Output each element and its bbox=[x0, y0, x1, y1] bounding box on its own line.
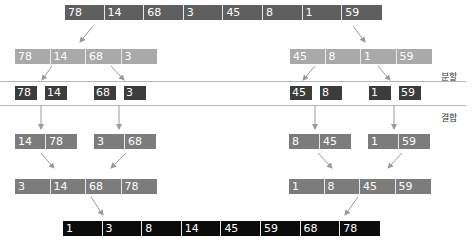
singleton-cell: 1 bbox=[369, 86, 391, 100]
array-cell: 45 bbox=[221, 221, 261, 236]
array-cell: 45 bbox=[360, 179, 396, 194]
array-cell: 59 bbox=[399, 134, 430, 149]
array-cell: 68 bbox=[86, 49, 122, 64]
merged-pair-3: 8 45 bbox=[289, 134, 351, 149]
array-cell: 78 bbox=[65, 5, 105, 20]
array-cell: 3 bbox=[94, 134, 125, 149]
singleton-cell: 8 bbox=[320, 86, 342, 100]
arrows-layer bbox=[0, 0, 476, 246]
array-cell: 68 bbox=[86, 179, 122, 194]
split-divider bbox=[0, 81, 466, 82]
merged-right-half: 1 8 45 59 bbox=[289, 179, 431, 194]
array-cell: 8 bbox=[326, 49, 362, 64]
array-cell: 45 bbox=[290, 49, 326, 64]
array-cell: 1 bbox=[289, 179, 325, 194]
array-cell: 8 bbox=[142, 221, 182, 236]
array-cell: 68 bbox=[144, 5, 184, 20]
array-cell: 68 bbox=[301, 221, 341, 236]
array-cell: 1 bbox=[368, 134, 399, 149]
array-cell: 1 bbox=[303, 5, 343, 20]
singleton-cell: 68 bbox=[94, 86, 116, 100]
array-cell: 78 bbox=[15, 49, 51, 64]
merged-left-half: 3 14 68 78 bbox=[15, 179, 157, 194]
singleton-cell: 45 bbox=[290, 86, 312, 100]
singleton-cell: 3 bbox=[124, 86, 146, 100]
array-cell: 59 bbox=[396, 179, 432, 194]
array-cell: 1 bbox=[63, 221, 103, 236]
array-cell: 78 bbox=[46, 134, 77, 149]
input-array: 78 14 68 3 45 8 1 59 bbox=[65, 5, 382, 20]
merged-pair-4: 1 59 bbox=[368, 134, 430, 149]
singleton-cell: 14 bbox=[45, 86, 67, 100]
array-cell: 45 bbox=[320, 134, 351, 149]
merged-pair-2: 3 68 bbox=[94, 134, 156, 149]
array-cell: 14 bbox=[51, 179, 87, 194]
sorted-output: 1 3 8 14 45 59 68 78 bbox=[63, 221, 380, 236]
array-cell: 59 bbox=[342, 5, 382, 20]
array-cell: 3 bbox=[184, 5, 224, 20]
array-cell: 3 bbox=[122, 49, 158, 64]
array-cell: 8 bbox=[325, 179, 361, 194]
split-right-half: 45 8 1 59 bbox=[290, 49, 432, 64]
array-cell: 3 bbox=[15, 179, 51, 194]
array-cell: 68 bbox=[125, 134, 156, 149]
array-cell: 14 bbox=[182, 221, 222, 236]
array-cell: 59 bbox=[261, 221, 301, 236]
array-cell: 8 bbox=[289, 134, 320, 149]
merge-label: 결합 bbox=[441, 111, 457, 124]
array-cell: 78 bbox=[122, 179, 158, 194]
singleton-cell: 59 bbox=[399, 86, 421, 100]
array-cell: 45 bbox=[223, 5, 263, 20]
arrow-split-left bbox=[80, 26, 93, 42]
array-cell: 1 bbox=[361, 49, 397, 64]
array-cell: 8 bbox=[263, 5, 303, 20]
array-cell: 14 bbox=[105, 5, 145, 20]
array-cell: 3 bbox=[103, 221, 143, 236]
split-left-half: 78 14 68 3 bbox=[15, 49, 157, 64]
array-cell: 14 bbox=[51, 49, 87, 64]
array-cell: 78 bbox=[340, 221, 380, 236]
array-cell: 59 bbox=[397, 49, 433, 64]
merged-pair-1: 14 78 bbox=[15, 134, 77, 149]
array-cell: 14 bbox=[15, 134, 46, 149]
merge-divider bbox=[0, 105, 466, 106]
singleton-cell: 78 bbox=[15, 86, 37, 100]
arrow-split-right bbox=[353, 26, 365, 42]
